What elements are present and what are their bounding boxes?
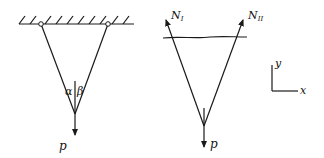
right-figure: NI NII p [163, 9, 263, 151]
force-arrow-n2 [204, 20, 243, 126]
ceiling-hatching [19, 16, 129, 24]
section-cut-line [163, 37, 247, 38]
load-label: p [59, 139, 67, 153]
pin-right [106, 22, 111, 27]
coordinate-axes: y x [272, 57, 307, 97]
free-body-diagram: α β p NI NII p y x [0, 0, 324, 158]
rod-right [75, 24, 108, 114]
force-n1-label: NI [170, 9, 184, 23]
load-label: p [210, 137, 218, 151]
angle-beta-label: β [76, 85, 83, 98]
y-axis-label: y [274, 57, 282, 70]
rod-left [41, 24, 75, 114]
ceiling-support [19, 16, 134, 24]
x-axis-label: x [300, 84, 307, 97]
force-n2-label: NII [247, 9, 263, 23]
angle-alpha-label: α [65, 85, 73, 98]
pin-left [39, 22, 44, 27]
force-arrow-n1 [166, 20, 204, 126]
left-figure: α β p [19, 16, 134, 153]
